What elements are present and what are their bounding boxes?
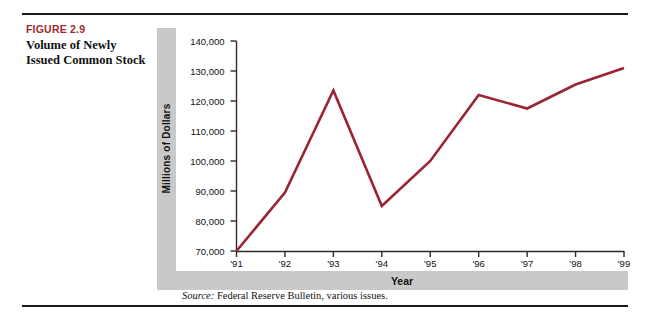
axis-lines xyxy=(236,41,624,252)
x-axis-tick-label: '92 xyxy=(270,258,300,269)
x-axis-tick-label: '94 xyxy=(367,258,397,269)
y-axis-tick-label: 70,000 xyxy=(167,246,225,257)
y-axis-tick-label: 130,000 xyxy=(167,66,225,77)
y-axis-tick-label: 110,000 xyxy=(167,126,225,137)
chart-plot-area: 70,00080,00090,000100,000110,000120,0001… xyxy=(0,0,650,322)
y-axis-tick-label: 120,000 xyxy=(167,96,225,107)
data-series-line xyxy=(237,68,625,251)
y-axis-ticks xyxy=(231,41,237,251)
chart-svg xyxy=(0,0,650,322)
x-axis-tick-label: '93 xyxy=(318,258,348,269)
x-axis-tick-label: '96 xyxy=(464,258,494,269)
source-note: Source: Federal Reserve Bulletin, variou… xyxy=(182,290,388,301)
y-axis-tick-label: 100,000 xyxy=(167,156,225,167)
source-text: Federal Reserve Bulletin, various issues… xyxy=(214,290,388,301)
y-axis-tick-label: 80,000 xyxy=(167,216,225,227)
y-axis-tick-label: 90,000 xyxy=(167,186,225,197)
y-axis-tick-label: 140,000 xyxy=(167,36,225,47)
x-axis-tick-label: '91 xyxy=(222,258,252,269)
x-axis-tick-label: '99 xyxy=(609,258,639,269)
figure-container: FIGURE 2.9 Volume of Newly Issued Common… xyxy=(0,0,650,322)
x-axis-tick-label: '98 xyxy=(561,258,591,269)
source-label: Source: xyxy=(182,290,214,301)
x-axis-tick-label: '97 xyxy=(512,258,542,269)
x-axis-tick-label: '95 xyxy=(415,258,445,269)
